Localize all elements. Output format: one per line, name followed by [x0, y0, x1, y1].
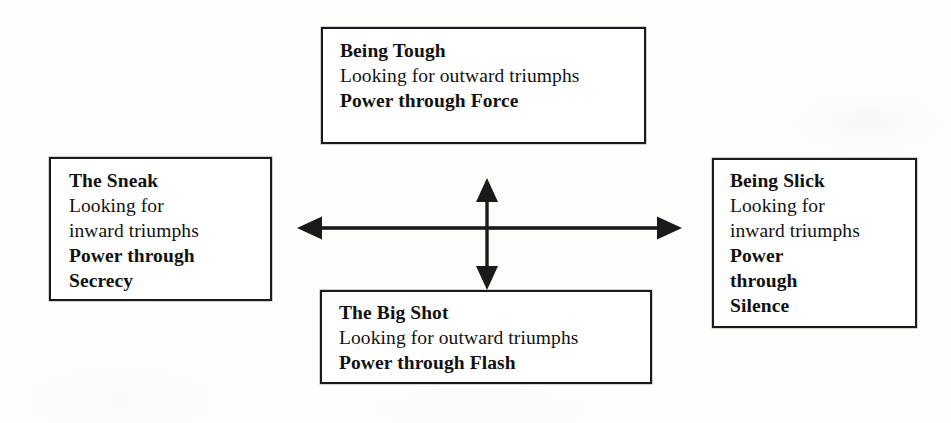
box-the-big-shot-line-3: Power through Flash [339, 350, 650, 375]
box-being-slick: Being Slick Looking for inward triumphs … [712, 158, 917, 328]
box-the-sneak-line-3: inward triumphs [69, 218, 270, 243]
box-the-sneak: The Sneak Looking for inward triumphs Po… [49, 157, 272, 301]
box-being-slick-text: Being Slick Looking for inward triumphs … [714, 160, 915, 318]
box-being-tough-line-3: Power through Force [340, 88, 644, 113]
box-the-sneak-line-5: Secrecy [69, 268, 270, 293]
box-being-slick-line-1: Being Slick [730, 168, 915, 193]
axis-cross [286, 168, 692, 300]
box-the-big-shot: The Big Shot Looking for outward triumph… [320, 290, 652, 384]
box-being-slick-line-4: Power [730, 243, 915, 268]
box-being-tough-text: Being Tough Looking for outward triumphs… [323, 29, 644, 113]
box-being-tough-line-1: Being Tough [340, 38, 644, 63]
box-being-slick-line-2: Looking for [730, 193, 915, 218]
box-the-big-shot-line-1: The Big Shot [339, 300, 650, 325]
box-the-sneak-line-2: Looking for [69, 193, 270, 218]
box-the-sneak-line-1: The Sneak [69, 168, 270, 193]
horizontal-arrow-icon [297, 217, 682, 240]
box-being-slick-line-6: Silence [730, 293, 915, 318]
diagram-canvas: Being Tough Looking for outward triumphs… [0, 0, 951, 423]
box-the-big-shot-line-2: Looking for outward triumphs [339, 325, 650, 350]
vertical-arrow-icon [476, 178, 498, 290]
box-being-tough: Being Tough Looking for outward triumphs… [321, 27, 646, 144]
box-the-sneak-line-4: Power through [69, 243, 270, 268]
box-being-tough-line-2: Looking for outward triumphs [340, 63, 644, 88]
box-being-slick-line-3: inward triumphs [730, 218, 915, 243]
box-the-sneak-text: The Sneak Looking for inward triumphs Po… [51, 159, 270, 293]
box-the-big-shot-text: The Big Shot Looking for outward triumph… [322, 292, 650, 375]
box-being-slick-line-5: through [730, 268, 915, 293]
